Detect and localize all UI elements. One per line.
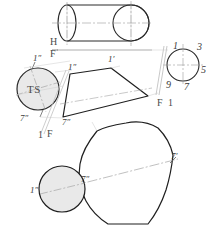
fold-label-1-left: 1 bbox=[38, 130, 43, 140]
development-stretchout-pattern bbox=[72, 122, 178, 224]
edge-circle-point-7: 7 bbox=[184, 82, 189, 92]
ts-point-1-label: 1″ bbox=[33, 54, 41, 63]
fold-label-1-right: 1 bbox=[168, 98, 173, 108]
development-tangent-label: 7″ bbox=[81, 175, 89, 184]
edge-circle-point-5: 5 bbox=[201, 65, 206, 75]
technical-drawing-canvas: H F 1 3 5 7 9 F 1 TS 1″ 7″ 1 F 1′ 1″ 7″ … bbox=[0, 0, 212, 229]
development-left-circle-label: 1″ bbox=[30, 186, 38, 195]
trapezoid-upper-left-label: 1″ bbox=[68, 63, 76, 72]
fold-label-h: H bbox=[50, 37, 57, 47]
fold-label-f-left: F bbox=[47, 129, 53, 139]
ts-point-7-label: 7″ bbox=[20, 114, 28, 123]
front-elevation-cylinder bbox=[52, 1, 152, 46]
trapezoid-lower-left-label: 7″ bbox=[62, 118, 70, 127]
fold-label-f-right: F bbox=[157, 98, 163, 108]
development-base-circle bbox=[39, 166, 85, 212]
edge-circle-point-1: 1 bbox=[173, 41, 178, 51]
edge-circle-point-3: 3 bbox=[197, 42, 202, 52]
edge-circle-point-9: 9 bbox=[166, 80, 171, 90]
true-size-label: TS bbox=[27, 84, 41, 95]
development-right-label: 7′ bbox=[171, 152, 177, 161]
trapezoid-apex-label: 1′ bbox=[108, 55, 114, 64]
fold-label-f: F bbox=[50, 49, 56, 59]
